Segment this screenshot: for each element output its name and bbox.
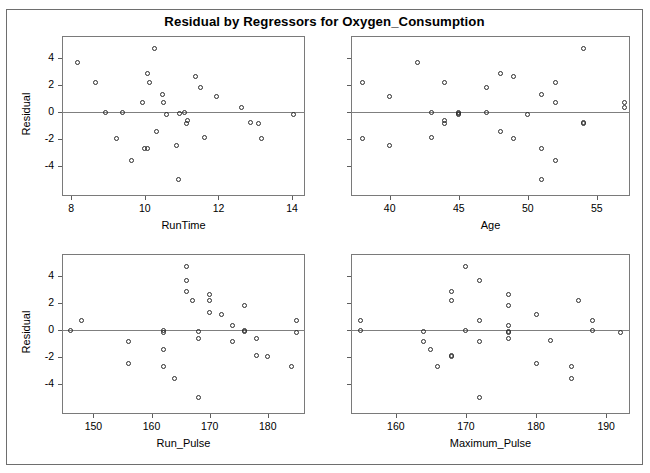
data-point: [581, 121, 586, 126]
x-axis-tick-label: 150: [73, 420, 113, 432]
scatter-panel-maximum_pulse: 160170180190: [351, 254, 630, 414]
data-point: [506, 330, 511, 335]
data-point: [548, 338, 553, 343]
y-axis-tick: [347, 85, 351, 86]
x-axis-tick: [459, 196, 460, 200]
zero-reference-line: [351, 330, 630, 331]
scatter-panel-runtime: 8101214420-2-4: [62, 36, 305, 196]
data-point: [576, 298, 581, 303]
data-point: [193, 74, 198, 79]
data-point: [534, 312, 539, 317]
scatter-panel-age: 40455055: [351, 36, 630, 196]
x-axis-tick-label: 180: [516, 420, 556, 432]
y-axis-tick: [58, 303, 62, 304]
x-axis-tick-label: 50: [508, 202, 548, 214]
data-point: [207, 292, 212, 297]
x-axis-tick-label: 14: [272, 202, 312, 214]
y-axis-tick: [347, 384, 351, 385]
x-axis-tick-label: 160: [376, 420, 416, 432]
x-axis-tick-label: 8: [51, 202, 91, 214]
x-axis-tick: [390, 196, 391, 200]
data-point: [219, 312, 224, 317]
data-point: [196, 329, 201, 334]
data-point: [160, 92, 165, 97]
data-point: [484, 85, 489, 90]
y-axis-tick: [347, 139, 351, 140]
x-axis-tick-label: 55: [577, 202, 617, 214]
x-axis-tick: [606, 414, 607, 418]
data-point: [103, 110, 108, 115]
data-point: [161, 347, 166, 352]
data-point: [539, 146, 544, 151]
data-point: [198, 85, 203, 90]
x-axis-title-runtime: RunTime: [62, 219, 305, 231]
data-point: [254, 353, 259, 358]
x-axis-tick: [597, 196, 598, 200]
scan-artifact-text: [0, 0, 650, 8]
y-axis-tick-label: -4: [24, 159, 54, 171]
data-point: [161, 330, 166, 335]
data-point: [161, 364, 166, 369]
data-point: [429, 135, 434, 140]
data-point: [120, 110, 125, 115]
y-axis-tick: [58, 166, 62, 167]
data-point: [429, 110, 434, 115]
x-axis-tick-label: 170: [446, 420, 486, 432]
data-point: [506, 336, 511, 341]
x-axis-tick-label: 12: [198, 202, 238, 214]
x-axis-tick-label: 190: [586, 420, 626, 432]
data-point: [196, 395, 201, 400]
y-axis-tick: [347, 112, 351, 113]
data-point: [506, 292, 511, 297]
data-point: [68, 328, 73, 333]
y-axis-tick: [58, 357, 62, 358]
data-point: [498, 71, 503, 76]
data-point: [242, 329, 247, 334]
y-axis-tick: [58, 58, 62, 59]
x-axis-tick-label: 180: [248, 420, 288, 432]
x-axis-tick: [292, 196, 293, 200]
data-point: [93, 80, 98, 85]
y-axis-tick: [347, 58, 351, 59]
data-point: [190, 298, 195, 303]
x-axis-tick: [466, 414, 467, 418]
data-point: [506, 323, 511, 328]
data-point: [484, 110, 489, 115]
panel-border: [62, 36, 305, 196]
y-axis-title-residual: Residual: [20, 84, 32, 144]
y-axis-tick: [347, 166, 351, 167]
data-point: [174, 143, 179, 148]
data-point: [256, 121, 261, 126]
data-point: [184, 289, 189, 294]
data-point: [553, 100, 558, 105]
panel-border: [351, 36, 630, 196]
y-axis-tick-label: 4: [24, 269, 54, 281]
data-point: [140, 100, 145, 105]
y-axis-tick: [58, 330, 62, 331]
x-axis-tick-label: 160: [132, 420, 172, 432]
data-point: [456, 111, 461, 116]
x-axis-tick-label: 170: [190, 420, 230, 432]
data-point: [618, 330, 623, 335]
figure-root: Residual by Regressors for Oxygen_Consum…: [0, 0, 650, 473]
y-axis-tick: [347, 276, 351, 277]
x-axis-tick: [218, 196, 219, 200]
data-point: [360, 136, 365, 141]
zero-reference-line: [351, 112, 630, 113]
x-axis-tick: [528, 196, 529, 200]
data-point: [152, 46, 157, 51]
data-point: [360, 80, 365, 85]
chart-title: Residual by Regressors for Oxygen_Consum…: [6, 14, 643, 29]
data-point: [289, 364, 294, 369]
data-point: [553, 158, 558, 163]
x-axis-tick-label: 45: [439, 202, 479, 214]
x-axis-tick: [71, 196, 72, 200]
data-point: [553, 80, 558, 85]
y-axis-tick: [58, 112, 62, 113]
x-axis-title-run_pulse: Run_Pulse: [62, 437, 305, 449]
x-axis-tick: [152, 414, 153, 418]
zero-reference-line: [62, 330, 305, 331]
data-point: [581, 46, 586, 51]
data-point: [506, 303, 511, 308]
data-point: [254, 336, 259, 341]
